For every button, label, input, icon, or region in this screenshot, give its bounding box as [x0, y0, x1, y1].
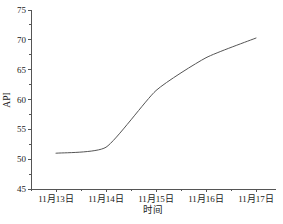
chart-figure: 45505560657075 11月13日11月14日11月15日11月16日1…	[0, 0, 283, 224]
x-tick-label-2: 11月15日	[138, 195, 174, 204]
y-tick-label-70: 70	[17, 35, 26, 44]
y-tick-label-55: 55	[17, 125, 26, 134]
y-tick-label-50: 50	[17, 155, 26, 164]
y-tick-label-65: 65	[17, 65, 26, 74]
line-chart-plot	[0, 0, 283, 224]
x-axis-title: 时间	[143, 206, 163, 216]
x-tick-label-0: 11月13日	[38, 195, 74, 204]
y-tick-label-60: 60	[17, 95, 26, 104]
x-tick-label-4: 11月17日	[238, 195, 274, 204]
x-tick-label-1: 11月14日	[88, 195, 124, 204]
y-tick-label-75: 75	[17, 6, 26, 15]
y-axis-title: API	[3, 92, 13, 107]
y-tick-label-45: 45	[17, 185, 26, 194]
axis-spines	[31, 10, 276, 189]
x-tick-label-3: 11月16日	[188, 195, 224, 204]
data-series-line	[56, 38, 256, 153]
